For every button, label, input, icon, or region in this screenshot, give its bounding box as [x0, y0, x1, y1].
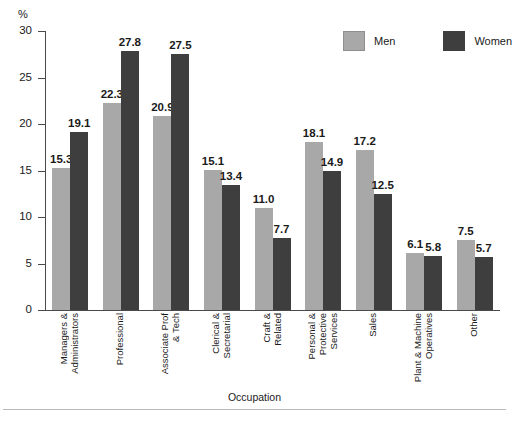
bar-men	[153, 116, 171, 310]
bar-men	[356, 150, 374, 310]
chart-legend: Men Women	[343, 31, 512, 51]
x-axis-category-label: Clerical &Secretarial	[211, 313, 232, 358]
y-axis-tick-label: 5	[8, 257, 32, 269]
bar-women	[475, 257, 493, 310]
bar-value-label: 27.5	[165, 39, 195, 51]
x-axis-category-label: Other	[469, 313, 479, 337]
y-axis-tick	[38, 31, 45, 32]
x-axis-category-label: Managers &Administrators	[59, 313, 80, 374]
bars-layer: 15.319.122.327.820.927.515.113.411.07.71…	[45, 31, 500, 310]
y-axis-tick	[38, 310, 45, 311]
y-axis-tick-label: 20	[8, 117, 32, 129]
bar-women	[171, 54, 189, 310]
bar-value-label: 27.8	[115, 36, 145, 48]
category-label-line: Managers &	[59, 313, 69, 364]
category-label-line: Secretarial	[222, 313, 232, 358]
y-axis-tick-label: 30	[8, 24, 32, 36]
category-label-line: & Tech	[171, 313, 181, 342]
x-axis-category-label: Craft &Related	[262, 313, 283, 346]
category-label-line: Protective	[318, 313, 328, 355]
y-axis-tick	[38, 264, 45, 265]
legend-item-men: Men	[343, 31, 395, 51]
bar-women	[323, 171, 341, 310]
x-axis-category-label: Associate Prof& Tech	[160, 313, 181, 374]
x-axis-category-label: Personal &ProtectiveServices	[307, 313, 339, 359]
bar-value-label: 5.7	[469, 242, 499, 254]
bar-value-label: 15.1	[198, 155, 228, 167]
y-axis-tick	[38, 171, 45, 172]
x-axis-line	[45, 310, 500, 311]
bar-women	[222, 185, 240, 310]
x-axis-title: Occupation	[0, 391, 509, 403]
bar-value-label: 19.1	[64, 117, 94, 129]
y-axis-tick	[38, 217, 45, 218]
footer-divider	[3, 409, 506, 410]
bar-value-label: 5.8	[418, 241, 448, 253]
y-axis-tick-label: 15	[8, 164, 32, 176]
y-axis-tick	[38, 124, 45, 125]
category-label-line: Other	[469, 313, 479, 337]
category-label-line: Related	[273, 313, 283, 346]
bar-value-label: 14.9	[317, 156, 347, 168]
bar-men	[204, 170, 222, 310]
category-label-line: Sales	[368, 313, 378, 337]
bar-value-label: 13.4	[216, 170, 246, 182]
legend-item-women: Women	[443, 31, 512, 51]
bar-women	[374, 194, 392, 310]
x-axis-category-label: Sales	[368, 313, 378, 337]
bar-value-label: 18.1	[299, 127, 329, 139]
x-axis-category-label: Plant & MachineOperatives	[413, 313, 434, 382]
y-axis-unit-label: %	[18, 8, 28, 20]
bar-value-label: 12.5	[368, 179, 398, 191]
category-label-line: Professional	[115, 313, 125, 365]
y-axis-tick-label: 0	[8, 303, 32, 315]
category-label-line: Craft &	[262, 313, 272, 343]
category-label-line: Services	[329, 313, 339, 349]
bar-value-label: 11.0	[249, 193, 279, 205]
legend-swatch-women-icon	[443, 31, 465, 51]
bar-women	[70, 132, 88, 310]
bar-value-label: 7.5	[451, 225, 481, 237]
bar-women	[424, 256, 442, 310]
category-label-line: Clerical &	[211, 313, 221, 354]
legend-label-men: Men	[374, 35, 395, 47]
bar-men	[52, 168, 70, 310]
legend-label-women: Women	[474, 35, 512, 47]
y-axis-tick-label: 25	[8, 71, 32, 83]
bar-women	[121, 51, 139, 310]
category-label-line: Operatives	[424, 313, 434, 359]
bar-value-label: 7.7	[267, 223, 297, 235]
x-axis-category-labels: Managers &AdministratorsProfessionalAsso…	[45, 313, 500, 391]
y-axis-tick-label: 10	[8, 210, 32, 222]
category-label-line: Associate Prof	[160, 313, 170, 374]
bar-men	[103, 103, 121, 310]
category-label-line: Administrators	[70, 313, 80, 374]
category-label-line: Personal &	[307, 313, 317, 359]
legend-swatch-men-icon	[343, 31, 365, 51]
bar-women	[273, 238, 291, 310]
y-axis-tick	[38, 78, 45, 79]
x-axis-category-label: Professional	[115, 313, 125, 365]
bar-value-label: 17.2	[350, 135, 380, 147]
bar-men	[406, 253, 424, 310]
category-label-line: Plant & Machine	[413, 313, 423, 382]
